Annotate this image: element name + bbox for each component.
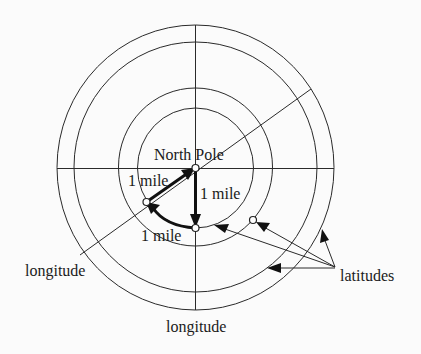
path-west-arc (153, 208, 196, 228)
pointer-outer (324, 238, 335, 267)
latitudes-label: latitudes (340, 267, 394, 284)
south-point-node (192, 225, 199, 232)
segment-right-label: 1 mile (200, 185, 240, 202)
longitude-bottom-label: longitude (166, 318, 226, 336)
north-pole-label: North Pole (154, 146, 224, 163)
arrowhead-pointer-node-icon (256, 222, 270, 232)
latitude-point-node (250, 217, 257, 224)
latitude-pointers (214, 222, 335, 273)
pointer-node (262, 226, 335, 267)
segment-bottom-label: 1 mile (141, 227, 181, 244)
arrowhead-pointer-inner-icon (214, 224, 229, 233)
segment-left-label: 1 mile (128, 172, 168, 189)
polar-diagram: North Pole 1 mile 1 mile 1 mile longitud… (0, 0, 421, 354)
arrowhead-pointer-second-icon (267, 263, 281, 273)
diagram-canvas: North Pole 1 mile 1 mile 1 mile longitud… (0, 0, 421, 354)
north-pole-node (192, 165, 199, 172)
west-point-node (143, 199, 150, 206)
longitude-left-label: longitude (25, 262, 85, 280)
arrowhead-pointer-outer-icon (320, 229, 329, 243)
